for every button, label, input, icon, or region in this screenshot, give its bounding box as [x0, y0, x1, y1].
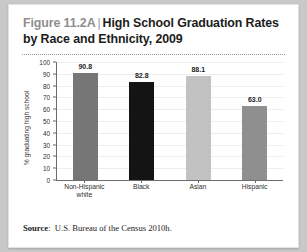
y-tick-label: 80 — [43, 82, 50, 89]
plot-area: 90.882.888.163.0 — [56, 62, 283, 181]
y-tick-label: 10 — [43, 165, 50, 172]
y-tick-label: 30 — [43, 141, 50, 148]
source-label: Source — [23, 223, 48, 233]
figure-card: Figure 11.2A|High School Graduation Rate… — [8, 4, 299, 248]
bar-slot: 82.8 — [114, 62, 171, 180]
y-tick-label: 70 — [43, 94, 50, 101]
y-axis-ticks: 0102030405060708090100 — [34, 62, 53, 180]
bar-slot: 90.8 — [57, 62, 114, 180]
y-tick-label: 100 — [39, 59, 50, 66]
x-tick-mark — [141, 180, 142, 183]
bar: 63.0 — [242, 106, 267, 180]
x-tick-mark — [198, 180, 199, 183]
x-axis-labels: Non-HispanicwhiteBlackAsianHispanic — [56, 183, 283, 200]
x-tick-label: Hispanic — [226, 183, 283, 200]
figure-header: Figure 11.2A|High School Graduation Rate… — [9, 5, 298, 47]
y-tick-label: 60 — [43, 106, 50, 113]
x-tick-label: Asian — [170, 183, 227, 200]
bar-slot: 63.0 — [227, 62, 284, 180]
source-note: Source: U.S. Bureau of the Census 2010h. — [23, 223, 172, 233]
bar-chart: % graduating high school 010203040506070… — [22, 62, 285, 194]
source-text: U.S. Bureau of the Census 2010h. — [55, 223, 172, 233]
bar: 90.8 — [73, 73, 98, 180]
bar-slot: 88.1 — [170, 62, 227, 180]
y-axis-title: % graduating high school — [21, 62, 32, 194]
x-tick-mark — [255, 180, 256, 183]
y-tick-label: 20 — [43, 153, 50, 160]
bar-group: 90.882.888.163.0 — [57, 62, 283, 180]
bar-value-label: 63.0 — [248, 96, 262, 103]
figure-number: Figure 11.2A — [23, 16, 95, 30]
x-tick-label: Black — [113, 183, 170, 200]
page-title: Figure 11.2A|High School Graduation Rate… — [23, 16, 284, 47]
bar: 88.1 — [186, 76, 211, 180]
x-tick-label: Non-Hispanicwhite — [56, 183, 113, 200]
title-divider — [22, 53, 285, 55]
plot-wrapper: 0102030405060708090100 90.882.888.163.0 … — [34, 62, 285, 194]
y-tick-label: 50 — [43, 118, 50, 125]
bar-value-label: 90.8 — [78, 63, 92, 70]
bar: 82.8 — [129, 82, 154, 180]
bar-value-label: 88.1 — [191, 66, 205, 73]
y-tick-label: 0 — [46, 177, 50, 184]
source-separator: : — [48, 223, 50, 233]
y-tick-label: 90 — [43, 70, 50, 77]
x-tick-mark — [84, 180, 85, 183]
bar-value-label: 82.8 — [135, 72, 149, 79]
title-separator: | — [95, 16, 102, 30]
y-tick-label: 40 — [43, 129, 50, 136]
